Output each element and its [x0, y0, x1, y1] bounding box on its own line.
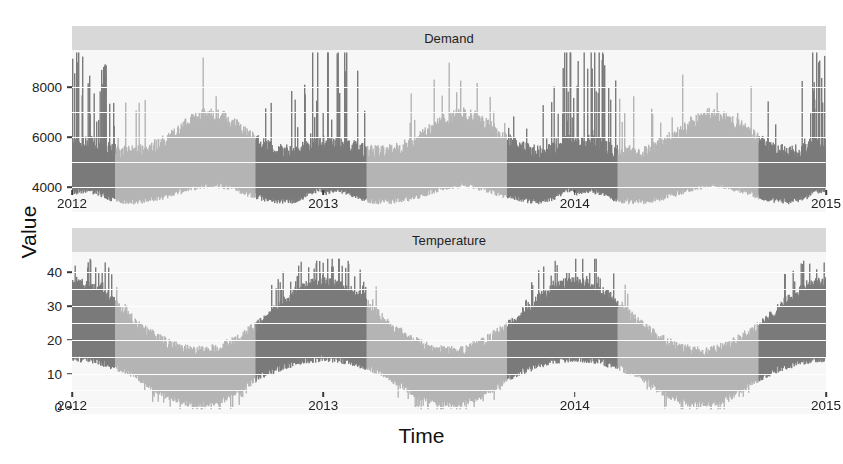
y-tick-mark [67, 305, 72, 307]
x-tick-label: 2014 [560, 398, 590, 413]
y-axis-demand: 400060008000 [0, 50, 72, 212]
x-tick-label: 2015 [811, 196, 841, 211]
x-tick-mark [825, 190, 827, 195]
x-axis-title: Time [0, 424, 843, 448]
gridline-minor [72, 323, 826, 324]
facet-panel-temperature: Temperature [72, 228, 826, 414]
gridline-minor [72, 162, 826, 163]
strip-label-demand: Demand [72, 26, 826, 50]
x-tick-mark [323, 190, 325, 195]
x-axis-temperature: 2012201320142015 [72, 390, 826, 420]
gridline-major [72, 87, 826, 88]
x-tick-mark [71, 392, 73, 397]
y-tick-mark [67, 87, 72, 89]
strip-text: Demand [424, 31, 474, 46]
chart-root: Value Time Demand 400060008000 201220132… [0, 0, 843, 464]
y-tick-label: 40 [0, 265, 62, 280]
strip-label-temperature: Temperature [72, 228, 826, 252]
x-tick-mark [71, 190, 73, 195]
y-tick-mark [67, 136, 72, 138]
facet-panel-demand: Demand [72, 26, 826, 212]
x-tick-mark [574, 392, 576, 397]
y-tick-label: 0 [0, 400, 62, 415]
gridline-minor [72, 112, 826, 113]
y-tick-mark [67, 271, 72, 273]
x-tick-label: 2013 [308, 398, 338, 413]
x-tick-label: 2015 [811, 398, 841, 413]
gridline-minor [72, 289, 826, 290]
gridline-major [72, 137, 826, 138]
strip-text: Temperature [412, 233, 486, 248]
x-tick-label: 2014 [560, 196, 590, 211]
x-tick-mark [825, 392, 827, 397]
x-tick-mark [323, 392, 325, 397]
y-axis-title: Value [17, 205, 41, 258]
gridline-major [72, 306, 826, 307]
x-tick-label: 2012 [57, 398, 87, 413]
gridline-major [72, 272, 826, 273]
y-tick-label: 10 [0, 366, 62, 381]
y-tick-label: 6000 [0, 130, 62, 145]
y-axis-temperature: 010203040 [0, 252, 72, 414]
y-tick-label: 20 [0, 332, 62, 347]
y-tick-label: 4000 [0, 180, 62, 195]
gridline-major [72, 374, 826, 375]
gridline-major [72, 340, 826, 341]
y-tick-mark [67, 373, 72, 375]
x-tick-mark [574, 190, 576, 195]
gridline-minor [72, 357, 826, 358]
x-axis-demand: 2012201320142015 [72, 188, 826, 218]
x-tick-label: 2013 [308, 196, 338, 211]
y-tick-label: 30 [0, 299, 62, 314]
y-tick-mark [67, 339, 72, 341]
x-tick-label: 2012 [57, 196, 87, 211]
y-tick-label: 8000 [0, 80, 62, 95]
